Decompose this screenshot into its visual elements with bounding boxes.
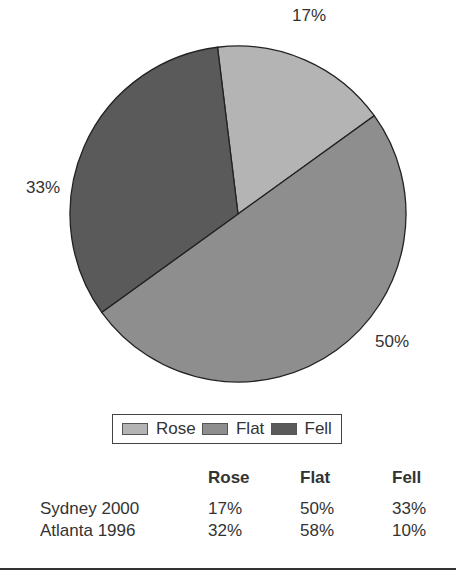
legend-item-flat: Flat (202, 419, 264, 439)
legend-swatch-flat (202, 423, 228, 435)
table-row: Sydney 2000 17% 50% 33% (40, 498, 452, 520)
table-header-rose: Rose (208, 468, 300, 498)
legend-label-flat: Flat (236, 419, 264, 439)
pie-label-rose: 17% (292, 6, 326, 26)
pie-label-fell: 33% (26, 178, 60, 198)
legend-item-fell: Fell (271, 419, 332, 439)
cell-rose: 17% (208, 498, 300, 520)
cell-fell: 10% (392, 520, 452, 542)
table-header-empty (40, 468, 208, 498)
legend-label-rose: Rose (156, 419, 196, 439)
table-header-row: Rose Flat Fell (40, 468, 452, 498)
comparison-table: Rose Flat Fell Sydney 2000 17% 50% 33% A… (40, 468, 452, 542)
legend-swatch-rose (122, 423, 148, 435)
table-header-fell: Fell (392, 468, 452, 498)
row-label: Atlanta 1996 (40, 520, 208, 542)
cell-fell: 33% (392, 498, 452, 520)
table-header-flat: Flat (300, 468, 392, 498)
pie-label-flat: 50% (375, 332, 409, 352)
row-label: Sydney 2000 (40, 498, 208, 520)
cell-rose: 32% (208, 520, 300, 542)
legend-label-fell: Fell (305, 419, 332, 439)
bottom-divider (0, 568, 456, 570)
table-row: Atlanta 1996 32% 58% 10% (40, 520, 452, 542)
legend-swatch-fell (271, 423, 297, 435)
cell-flat: 58% (300, 520, 392, 542)
legend-item-rose: Rose (122, 419, 196, 439)
chart-legend: Rose Flat Fell (112, 414, 342, 444)
cell-flat: 50% (300, 498, 392, 520)
